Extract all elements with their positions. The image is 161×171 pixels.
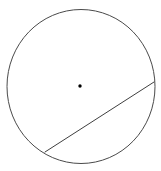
center-point [78,84,81,87]
chord-segment [45,82,154,152]
geometry-figure-canvas: Circle with marked center and a chord ci… [0,0,161,171]
geometry-svg [0,0,161,171]
